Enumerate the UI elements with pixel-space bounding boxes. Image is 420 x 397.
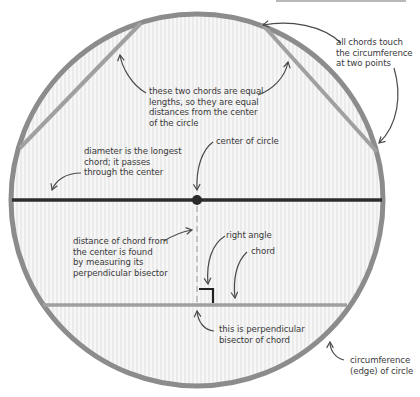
center-dot [192,195,202,205]
label-all-chords: all chords touch the circumference at tw… [336,37,413,69]
label-chord: chord [251,246,275,257]
label-equal-chords: these two chords are equal lengths, so t… [149,86,263,128]
label-circumference: circumference (edge) of circle [350,355,413,376]
arrow-circumference [330,342,344,360]
label-center: center of circle [216,136,279,147]
label-right-angle: right angle [226,230,272,241]
label-diameter: diameter is the longest chord; it passes… [84,146,182,178]
label-distance: distance of chord from the center is fou… [73,236,168,278]
arrow-all-chords-right [379,68,398,143]
label-bisector: this is perpendicular bisector of chord [219,324,305,345]
